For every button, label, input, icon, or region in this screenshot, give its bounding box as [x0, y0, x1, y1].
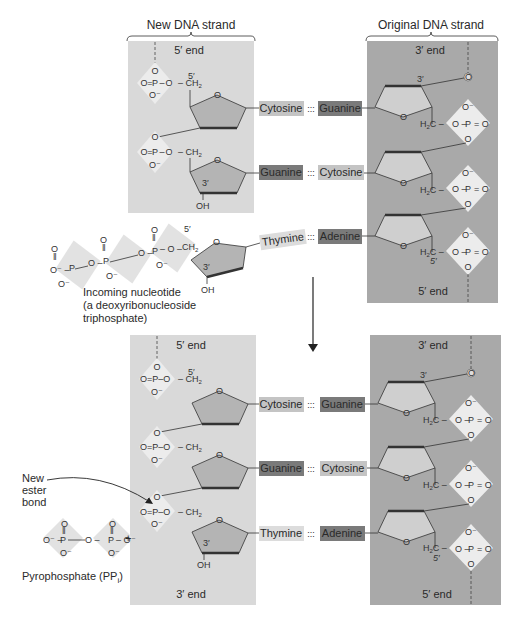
svg-text:Cytosine: Cytosine	[322, 462, 365, 474]
svg-text:H2C –: H2C –	[420, 119, 444, 130]
svg-text:P: P	[152, 147, 158, 157]
svg-text:OH: OH	[197, 560, 211, 570]
svg-text:O: O	[165, 147, 172, 157]
svg-text:Adenine: Adenine	[320, 230, 360, 242]
svg-text:P: P	[60, 535, 66, 545]
bottom-pair-3: Thymine ::: Adenine	[259, 526, 365, 541]
svg-text:O: O	[151, 66, 158, 76]
svg-text:O⁻: O⁻	[149, 90, 161, 100]
svg-text:O: O	[153, 428, 160, 438]
svg-text:H2C –: H2C –	[420, 185, 444, 196]
svg-text:‖: ‖	[152, 233, 156, 243]
pyrophosphate-label: Pyrophosphate (PPi)	[22, 570, 123, 585]
plus-sign: +	[125, 532, 131, 544]
svg-text:O⁻: O⁻	[151, 455, 163, 465]
svg-text::::: :::	[307, 529, 315, 539]
svg-text:O: O	[216, 515, 223, 525]
top-pair-1: Cytosine ::: Guanine	[259, 101, 362, 116]
svg-text:O: O	[464, 134, 471, 144]
svg-text:O⁻: O⁻	[106, 271, 118, 281]
svg-text:O⁻ –: O⁻ –	[50, 265, 70, 275]
incoming-label-line3: triphosphate)	[83, 312, 147, 324]
svg-text:O⁻: O⁻	[465, 463, 477, 473]
svg-text:P: P	[152, 246, 158, 256]
svg-text:P: P	[465, 247, 471, 257]
svg-text:Cytosine: Cytosine	[260, 398, 303, 410]
svg-text:O⁻: O⁻	[465, 398, 477, 408]
svg-text:CH2: CH2	[182, 242, 199, 253]
bottom-new-3prime-end: 3′ end	[176, 588, 206, 600]
incoming-nucleotide: O⁻ – P O ‖ O⁻ O – P O ‖ O⁻ O – P O ‖ O⁻ …	[50, 219, 260, 295]
svg-text:P: P	[108, 535, 114, 545]
svg-text:O: O	[400, 178, 407, 188]
incoming-label-line2: (a deoxyribonucleoside	[83, 299, 196, 311]
svg-text:H2C –: H2C –	[423, 415, 447, 426]
svg-text:O: O	[465, 72, 472, 82]
svg-text:O: O	[403, 473, 410, 483]
svg-text:O: O	[214, 90, 221, 100]
svg-text:O⁻: O⁻	[108, 548, 120, 558]
svg-text:O: O	[464, 262, 471, 272]
svg-text::::: :::	[307, 168, 315, 178]
svg-text:5′: 5′	[188, 71, 195, 81]
svg-text:H2C –: H2C –	[420, 247, 444, 258]
svg-text:= O: = O	[474, 119, 489, 129]
svg-text:O⁻: O⁻	[151, 387, 163, 397]
svg-text:O: O	[464, 199, 471, 209]
svg-text::::: :::	[307, 104, 315, 114]
svg-text:Thymine: Thymine	[260, 527, 302, 539]
svg-text:O⁻: O⁻	[149, 160, 161, 170]
svg-text::::: :::	[307, 232, 315, 242]
svg-text:3′: 3′	[417, 74, 424, 84]
svg-text:Guanine: Guanine	[260, 166, 302, 178]
svg-text:3′: 3′	[420, 370, 427, 380]
svg-text:O: O	[467, 559, 474, 569]
svg-text:O⁻: O⁻	[465, 527, 477, 537]
new-bond-label-line2: ester	[22, 484, 47, 496]
svg-text:= O: = O	[477, 544, 492, 554]
top-orig-3prime-end: 3′ end	[415, 44, 445, 56]
dna-replication-diagram: New DNA strand Original DNA strand 5′ en…	[0, 0, 526, 624]
svg-text:= O: = O	[477, 415, 492, 425]
svg-text::::: :::	[307, 400, 315, 410]
svg-text:Guanine: Guanine	[321, 398, 363, 410]
svg-text:P: P	[468, 544, 474, 554]
svg-text:‖: ‖	[102, 243, 106, 253]
svg-text:O=P–O: O=P–O	[140, 374, 170, 384]
svg-text:–: –	[159, 147, 164, 157]
svg-text:O: O	[165, 78, 172, 88]
new-bond-label-line3: bond	[22, 496, 46, 508]
svg-text:O: O	[403, 408, 410, 418]
top-pair-2: Guanine ::: Cytosine	[259, 165, 364, 180]
svg-text:5′: 5′	[188, 367, 195, 377]
svg-text:P: P	[103, 256, 109, 266]
svg-text:O⁻: O⁻	[151, 519, 163, 529]
svg-text:O⁻: O⁻	[462, 230, 474, 240]
top-new-5prime-end: 5′ end	[174, 44, 204, 56]
svg-text:OH: OH	[201, 285, 215, 295]
svg-text:P: P	[468, 480, 474, 490]
svg-text:O⁻: O⁻	[58, 279, 70, 289]
svg-text:5′: 5′	[184, 224, 191, 234]
svg-text:P: P	[465, 184, 471, 194]
svg-text:O: O	[400, 241, 407, 251]
svg-text:O: O	[403, 537, 410, 547]
svg-text:P: P	[468, 415, 474, 425]
top-pair-3: Thymine ::: Adenine	[259, 229, 362, 250]
svg-text::::: :::	[307, 464, 315, 474]
svg-text:OH: OH	[196, 201, 210, 211]
original-strand-header: Original DNA strand	[378, 18, 484, 32]
svg-text:O: O	[467, 495, 474, 505]
incoming-label-line1: Incoming nucleotide	[83, 286, 181, 298]
original-strand-bracket	[366, 32, 498, 41]
svg-text:O=P–O: O=P–O	[140, 442, 170, 452]
svg-text:O⁻: O⁻	[462, 102, 474, 112]
svg-text:O: O	[214, 155, 221, 165]
svg-text:Cytosine: Cytosine	[260, 102, 303, 114]
svg-text:O: O	[213, 237, 220, 247]
svg-text:3′: 3′	[202, 178, 209, 188]
bottom-new-5prime-end: 5′ end	[176, 339, 206, 351]
svg-text:O: O	[153, 492, 160, 502]
reaction-arrowhead	[308, 344, 318, 352]
svg-text:Guanine: Guanine	[319, 102, 361, 114]
